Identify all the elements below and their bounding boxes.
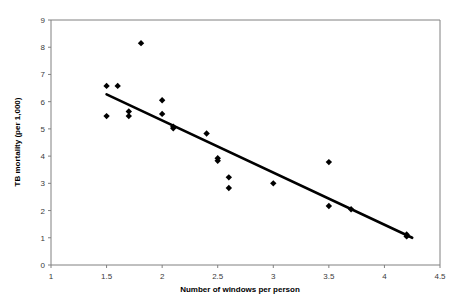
data-point-marker (114, 83, 120, 89)
x-tick-label: 2 (160, 272, 165, 281)
x-tick-label: 3.5 (323, 272, 335, 281)
chart-canvas: 0123456789 11.522.533.544.5 TB mortality… (0, 0, 467, 304)
data-point-marker (138, 40, 144, 46)
data-point-marker (103, 113, 109, 119)
y-tick-label: 6 (41, 98, 46, 107)
trend-line (107, 94, 413, 237)
trend-line-segment (107, 94, 413, 237)
y-axis-tick-labels: 0123456789 (41, 16, 46, 270)
y-tick-label: 3 (41, 179, 46, 188)
y-tick-label: 8 (41, 43, 46, 52)
y-tick-label: 5 (41, 125, 46, 134)
data-point-marker (226, 185, 232, 191)
y-tick-label: 4 (41, 152, 46, 161)
x-axis-title: Number of windows per person (180, 285, 300, 294)
data-point-marker (159, 97, 165, 103)
data-point-marker (270, 180, 276, 186)
data-point-marker (326, 203, 332, 209)
scatter-chart: 0123456789 11.522.533.544.5 TB mortality… (0, 0, 467, 304)
y-axis-title: TB mortality (per 1,000) (13, 97, 22, 186)
data-point-marker (226, 174, 232, 180)
x-tick-label: 1 (49, 272, 54, 281)
data-point-marker (159, 111, 165, 117)
y-tick-label: 2 (41, 207, 46, 216)
x-tick-label: 2.5 (212, 272, 224, 281)
plot-frame (51, 20, 440, 265)
x-tick-label: 4 (382, 272, 387, 281)
x-tick-label: 1.5 (101, 272, 113, 281)
x-tick-label: 3 (271, 272, 276, 281)
x-axis-tick-labels: 11.522.533.544.5 (49, 272, 446, 281)
data-points (103, 40, 409, 240)
data-point-marker (326, 159, 332, 165)
y-tick-label: 9 (41, 16, 46, 25)
y-tick-label: 7 (41, 70, 46, 79)
data-point-marker (203, 130, 209, 136)
y-tick-label: 1 (41, 234, 46, 243)
x-tick-label: 4.5 (434, 272, 446, 281)
data-point-marker (103, 83, 109, 89)
y-tick-label: 0 (41, 261, 46, 270)
data-point-marker (126, 113, 132, 119)
